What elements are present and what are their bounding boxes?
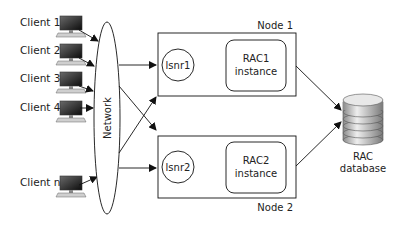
client-n: Client n: [20, 176, 86, 197]
database-label-line1: RAC: [353, 151, 373, 162]
instance-name: RAC2: [243, 155, 270, 166]
computer-icon: [56, 176, 86, 197]
node-label: Node 1: [257, 20, 293, 31]
computer-icon: [56, 16, 86, 37]
client-label: Client 1: [20, 16, 60, 28]
network-label: Network: [102, 97, 113, 139]
database-icon: [343, 94, 383, 145]
instance-name: RAC1: [243, 53, 270, 64]
node-2: Node 2 lsnr2 RAC2 instance: [158, 136, 296, 213]
rac-architecture-diagram: Client 1 Client 2 Client 3 Client 4 Clie…: [0, 0, 410, 226]
client-label: Client 4: [20, 101, 61, 113]
node-1: Node 1 lsnr1 RAC1 instance: [158, 20, 296, 96]
client-2: Client 2: [20, 44, 86, 65]
client-4: Client 4: [20, 101, 86, 122]
node-label: Node 2: [257, 202, 293, 213]
client-1: Client 1: [20, 16, 86, 37]
instance-label: instance: [235, 66, 277, 77]
listener-label: lsnr1: [166, 60, 191, 71]
database-label-line2: database: [340, 163, 386, 174]
instance-label: instance: [235, 168, 277, 179]
computer-icon: [56, 72, 86, 93]
computer-icon: [56, 44, 86, 65]
client-label: Client 3: [20, 72, 60, 84]
computer-icon: [56, 101, 86, 122]
listener-label: lsnr2: [166, 162, 191, 173]
network-node-arrows: [119, 65, 156, 168]
client-3: Client 3: [20, 72, 86, 93]
network: Network: [94, 22, 120, 214]
client-label: Client n: [20, 176, 60, 188]
node-database-arrows: [296, 66, 341, 166]
client-label: Client 2: [20, 44, 60, 56]
